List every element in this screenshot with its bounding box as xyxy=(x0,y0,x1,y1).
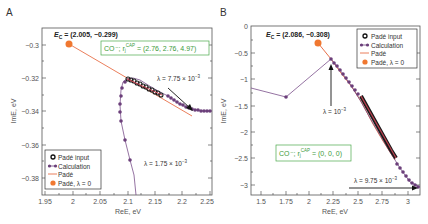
panel-a-x-ticks xyxy=(45,191,210,195)
y-tick-label: 0 xyxy=(244,23,248,30)
x-tick-label: 2.1 xyxy=(123,198,133,205)
legend-pade-lambda-zero-icon xyxy=(50,180,55,185)
arrow-head-icon xyxy=(329,64,334,70)
panel-b-ec-label: EC = (2.086, −0.308) xyxy=(266,31,330,40)
legend-item: Padé, λ = 0 xyxy=(58,180,91,187)
y-tick-label: −1 xyxy=(240,76,248,83)
x-tick-label: 2.15 xyxy=(148,198,162,205)
panel-a-legend: Padé input Calculation Padé Padé, λ = 0 xyxy=(45,150,101,189)
x-tick-label: 2.25 xyxy=(200,198,214,205)
x-tick-label: 2.05 xyxy=(93,198,107,205)
calculation-points xyxy=(118,80,212,162)
x-tick-label: 1.95 xyxy=(38,198,52,205)
x-tick-label: 2.5 xyxy=(353,198,363,205)
legend-item: Padé, λ = 0 xyxy=(371,59,404,66)
panel-a-ec-label: EC = (2.005, −0.299) xyxy=(54,31,118,40)
y-tick-label: −1.5 xyxy=(234,103,248,110)
y-tick-label: −0.3 xyxy=(25,42,39,49)
x-tick-label: 3 xyxy=(406,198,410,205)
panel-a: A −0.3 −0.32 −0.34 −0.36 −0.38 1.95 xyxy=(6,7,214,215)
x-tick-label: 2 xyxy=(71,198,75,205)
y-tick-label: −2.5 xyxy=(234,155,248,162)
x-tick-label: 2.25 xyxy=(326,198,340,205)
panel-b-y-axis-label: ImE, eV xyxy=(220,98,227,123)
panel-a-annotation-lambda-low: λ = 1.75 × 10−3 xyxy=(144,159,188,167)
y-tick-label: −0.36 xyxy=(21,142,39,149)
legend-item: Calculation xyxy=(58,163,91,170)
panel-b-x-ticks xyxy=(261,191,408,195)
y-tick-label: −0.5 xyxy=(234,50,248,57)
x-tick-label: 1.75 xyxy=(279,198,293,205)
x-tick-label: 2.2 xyxy=(177,198,187,205)
panel-b-legend: Padé input Calculation Padé Padé, λ = 0 xyxy=(357,29,417,68)
panel-a-x-tick-labels: 1.95 2 2.05 2.1 2.15 2.2 2.25 xyxy=(38,198,214,205)
y-tick-label: −2 xyxy=(240,129,248,136)
y-tick-label: −0.38 xyxy=(21,175,39,182)
panel-a-annotation-lambda-high: λ = 7.75 × 10−3 xyxy=(157,74,201,82)
panel-b-annotation-lambda-high: λ = 9.75 × 10−3 xyxy=(354,176,398,184)
panel-a-y-tick-labels: −0.3 −0.32 −0.34 −0.36 −0.38 xyxy=(21,42,39,182)
panel-b-x-tick-labels: 1.5 1.75 2 2.25 2.5 2.75 3 xyxy=(256,198,410,205)
pade-fit-overlay xyxy=(361,96,396,158)
panel-b-x-axis-label: ReE, eV xyxy=(322,208,348,215)
panel-a-x-axis-label: ReE, eV xyxy=(115,208,141,215)
y-tick-label: −3 xyxy=(240,182,248,189)
x-tick-label: 2.75 xyxy=(375,198,389,205)
panel-b: B 0 −0.5 −1 −1.5 −2 −2.5 −3 1 xyxy=(220,7,420,215)
figure: A −0.3 −0.32 −0.34 −0.36 −0.38 1.95 xyxy=(0,0,428,224)
calculation-curve xyxy=(120,78,211,195)
y-tick-label: −0.32 xyxy=(21,75,39,82)
x-tick-label: 2 xyxy=(307,198,311,205)
legend-item: Padé xyxy=(371,50,387,57)
pade-lambda-zero-point xyxy=(315,40,322,47)
legend-item: Padé xyxy=(58,171,74,178)
legend-pade-lambda-zero-icon xyxy=(362,59,367,64)
x-tick-label: 1.5 xyxy=(256,198,266,205)
y-tick-label: −0.34 xyxy=(21,108,39,115)
panel-b-annotation-lambda-low: λ = 10−3 xyxy=(323,107,347,115)
legend-item: Padé input xyxy=(58,154,89,162)
panel-a-label: A xyxy=(6,7,13,18)
legend-item: Calculation xyxy=(371,42,404,49)
legend-item: Padé input xyxy=(371,33,402,41)
panel-a-y-axis-label: ImE, eV xyxy=(10,98,17,123)
calculation-curve xyxy=(251,59,420,187)
panel-b-label: B xyxy=(220,7,227,18)
calculation-points xyxy=(284,57,420,189)
pade-lambda-zero-point xyxy=(66,41,73,48)
panel-b-y-tick-labels: 0 −0.5 −1 −1.5 −2 −2.5 −3 xyxy=(234,23,248,189)
